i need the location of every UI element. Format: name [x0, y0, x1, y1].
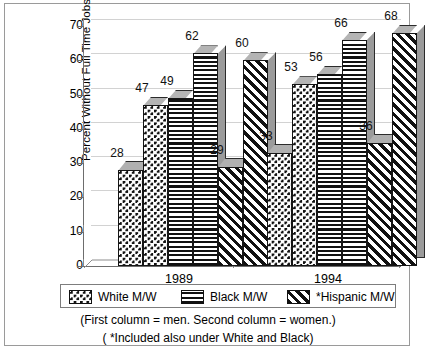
bar-1994-hispanic-men[interactable]: 36	[367, 143, 392, 266]
bar-front-face	[367, 143, 392, 266]
legend-item-white[interactable]: White M/W	[69, 289, 157, 305]
y-tick-mark	[77, 232, 84, 233]
x-axis-line	[83, 266, 401, 267]
bar-front-face	[168, 98, 193, 266]
chart-legend: White M/W Black M/W *Hispanic M/W	[60, 284, 396, 308]
bar-value-label: 66	[326, 16, 356, 30]
bar-value-label: 60	[227, 36, 257, 50]
bar-group-1994: 33 53 56 66	[267, 26, 417, 266]
bar-front-face	[342, 40, 367, 266]
bar-front-face	[392, 33, 417, 266]
y-tick-riser	[83, 19, 84, 26]
y-tick-label-10: 10	[57, 224, 83, 238]
y-tick-mark	[77, 60, 84, 61]
y-tick-mark	[77, 26, 84, 27]
bar-value-label: 68	[376, 9, 406, 23]
bar-1994-black-men[interactable]: 56	[317, 74, 342, 266]
bar-front-face	[267, 153, 292, 266]
legend-label-black: Black M/W	[210, 290, 267, 304]
bar-front-face	[292, 84, 317, 266]
bar-value-label: 56	[301, 50, 331, 64]
legend-label-white: White M/W	[98, 290, 157, 304]
y-tick-label-0: 0	[57, 258, 83, 272]
bar-1994-white-women[interactable]: 53	[292, 84, 317, 266]
plot-area: Percent Without Full Time Jobs 70 60 50 …	[73, 22, 407, 270]
y-tick-label-40: 40	[57, 121, 83, 135]
bar-front-face	[118, 170, 143, 266]
y-tick-label-70: 70	[57, 18, 83, 32]
y-tick-mark	[77, 197, 84, 198]
bar-value-label: 62	[177, 29, 207, 43]
bar-front-face	[143, 105, 168, 266]
bar-1994-hispanic-women[interactable]: 68	[392, 33, 417, 266]
bar-1989-black-men[interactable]: 49	[168, 98, 193, 266]
legend-swatch-black-icon	[181, 290, 204, 304]
y-tick-mark	[77, 95, 84, 96]
bar-value-label: 36	[351, 119, 381, 133]
y-tick-label-50: 50	[57, 87, 83, 101]
y-tick-mark	[77, 163, 84, 164]
bar-1989-hispanic-women[interactable]: 60	[243, 60, 268, 266]
footnote-asterisk: ( *Included also under White and Black)	[5, 331, 411, 345]
bar-value-label: 28	[102, 146, 132, 160]
bar-side-face	[417, 25, 425, 258]
bars-container: 28 47 49 62	[84, 26, 401, 266]
legend-item-black[interactable]: Black M/W	[181, 289, 267, 305]
bar-1989-white-men[interactable]: 28	[118, 170, 143, 266]
bar-1994-black-women[interactable]: 66	[342, 40, 367, 266]
bar-1989-white-women[interactable]: 47	[143, 105, 168, 266]
y-tick-mark	[77, 266, 84, 267]
bar-front-face	[193, 53, 218, 266]
bar-group-1989: 28 47 49 62	[118, 26, 268, 266]
legend-label-hispanic: *Hispanic M/W	[316, 290, 395, 304]
bar-1994-white-men[interactable]: 33	[267, 153, 292, 266]
y-tick-label-60: 60	[57, 52, 83, 66]
y-tick-label-20: 20	[57, 189, 83, 203]
y-tick-mark	[77, 129, 84, 130]
y-tick-label-30: 30	[57, 155, 83, 169]
bar-value-label: 49	[152, 74, 182, 88]
footnote-columns: (First column = men. Second column = wom…	[5, 313, 411, 327]
bar-front-face	[317, 74, 342, 266]
legend-item-hispanic[interactable]: *Hispanic M/W	[287, 289, 395, 305]
bar-value-label: 29	[202, 143, 232, 157]
chart-figure: Percent Without Full Time Jobs 70 60 50 …	[4, 3, 410, 346]
legend-swatch-white-icon	[69, 290, 92, 304]
bar-value-label: 33	[251, 129, 281, 143]
legend-swatch-hispanic-icon	[287, 290, 310, 304]
bar-1989-hispanic-men[interactable]: 29	[218, 167, 243, 266]
bar-front-face	[218, 167, 243, 266]
bar-front-face	[243, 60, 268, 266]
bar-1989-black-women[interactable]: 62	[193, 53, 218, 266]
